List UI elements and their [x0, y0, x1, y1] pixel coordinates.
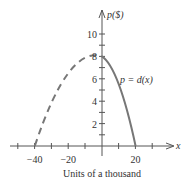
- y-tick-10: 10: [87, 29, 97, 40]
- x-axis: [10, 143, 172, 149]
- y-axis-label: p($): [106, 9, 124, 21]
- curve-label: p = d(x): [119, 74, 154, 86]
- y-tick-8: 8: [92, 51, 97, 62]
- y-tick-4: 4: [92, 96, 97, 107]
- x-axis-symbol: x: [175, 140, 181, 151]
- y-tick-6: 6: [92, 74, 97, 85]
- demand-chart: p($) x p = d(x) 10 8 6 4 2 −40 −20 20 Un…: [0, 0, 192, 187]
- x-axis-caption: Units of a thousand: [63, 168, 141, 179]
- x-tick-20: 20: [130, 154, 140, 165]
- y-axis: [99, 10, 105, 156]
- demand-curve-solid: [102, 56, 136, 146]
- x-tick-neg20: −20: [60, 154, 76, 165]
- y-tick-2: 2: [92, 119, 97, 130]
- x-tick-neg40: −40: [27, 154, 43, 165]
